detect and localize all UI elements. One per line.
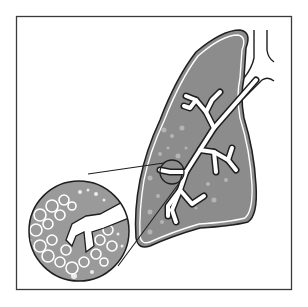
lung-illustration <box>0 0 308 307</box>
lung-diagram-svg <box>0 0 308 307</box>
